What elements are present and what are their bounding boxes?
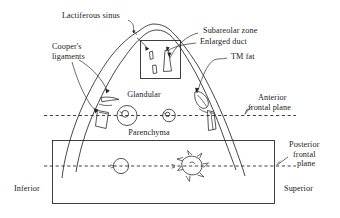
arrowhead-duct-small bbox=[145, 46, 149, 50]
label-lactiferous-sinus: Lactiferous sinus bbox=[62, 11, 120, 21]
spiculated-mass-body bbox=[182, 156, 202, 175]
subareolar-box bbox=[141, 41, 181, 79]
leader-tm-fat bbox=[197, 58, 227, 93]
label-subareolar-zone: Subareolar zone bbox=[203, 26, 257, 36]
label-coopers-ligaments-line2: ligaments bbox=[52, 52, 85, 62]
glandular-nodule-large-core bbox=[122, 110, 129, 117]
label-parenchyma: Parenchyma bbox=[108, 128, 190, 138]
duct-small-icon bbox=[150, 51, 154, 59]
leader-posterior-plane bbox=[277, 157, 288, 165]
label-anterior-plane-line2: frontal plane bbox=[248, 103, 291, 113]
label-posterior-plane-line2: frontal bbox=[293, 150, 316, 160]
interlobular-stroke-left bbox=[99, 104, 112, 106]
label-inferior: Inferior bbox=[14, 184, 40, 194]
label-superior: Superior bbox=[284, 184, 313, 194]
label-enlarged-duct: Enlarged duct bbox=[200, 37, 247, 47]
arrowhead-posterior-plane bbox=[275, 160, 282, 166]
duct-tiny-icon bbox=[153, 65, 157, 74]
label-posterior-plane-line3: plane bbox=[297, 159, 315, 169]
diagram-canvas: Lactiferous sinus Cooper's ligaments Sub… bbox=[0, 0, 340, 218]
label-anterior-plane-line1: Anterior bbox=[258, 93, 287, 103]
breast-outline-left-inner bbox=[76, 37, 142, 172]
glandular-nodule-small-core bbox=[165, 112, 169, 116]
label-coopers-ligaments-line1: Cooper's bbox=[52, 42, 82, 52]
label-glandular: Glandular bbox=[108, 90, 180, 100]
label-tm-fat: TM fat bbox=[231, 52, 255, 62]
cooper-ligament-lower bbox=[96, 111, 109, 129]
leader-lactiferous-sinus bbox=[128, 20, 137, 35]
leader-coopers-lower bbox=[72, 62, 97, 112]
areola-ridge bbox=[142, 30, 170, 37]
chest-wall-box bbox=[53, 141, 275, 204]
label-posterior-plane-line1: Posterior bbox=[289, 140, 319, 150]
leader-coopers-upper bbox=[79, 60, 108, 92]
interlobular-stroke-right bbox=[199, 109, 208, 113]
